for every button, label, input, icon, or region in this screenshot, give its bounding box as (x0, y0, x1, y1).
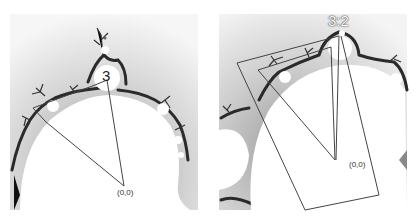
minor-bulb (279, 71, 291, 83)
right-origin-label: (0,0) (349, 160, 365, 169)
left-fractal-diagram (0, 0, 209, 220)
left-bulb-label: 3 (102, 67, 110, 84)
right-panel: 3:2 (0,0) (209, 0, 418, 220)
minor-bulb (174, 136, 182, 144)
minor-bulb (390, 73, 402, 85)
minor-bulb (157, 103, 169, 115)
minor-bulb (101, 46, 109, 54)
left-panel: 3 (0,0) (0, 0, 209, 220)
minor-bulb (339, 30, 345, 36)
right-fractal-diagram (209, 0, 418, 220)
minor-bulb (178, 152, 184, 158)
right-bulb-label: 3:2 (328, 12, 349, 29)
left-origin-label: (0,0) (117, 188, 133, 197)
